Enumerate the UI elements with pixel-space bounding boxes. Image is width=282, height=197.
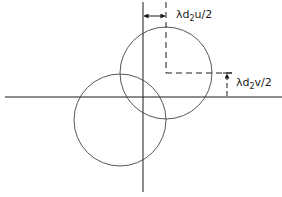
- reference-circle: [74, 74, 166, 166]
- vertical-offset-label: λd2v/2: [236, 76, 272, 91]
- diagram-canvas: λd2u/2 λd2v/2: [0, 0, 282, 197]
- horizontal-offset-label: λd2u/2: [176, 8, 212, 23]
